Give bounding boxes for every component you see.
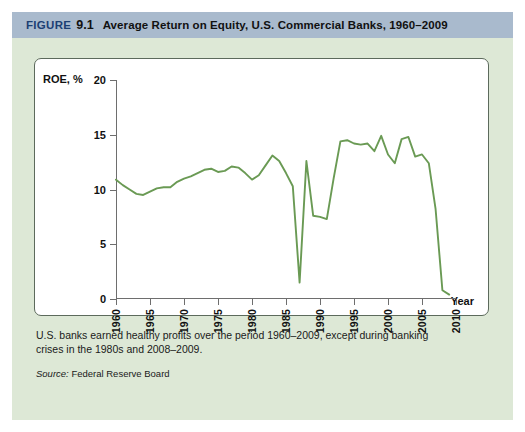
y-tick-label: 10 bbox=[94, 184, 106, 196]
x-tick-mark bbox=[218, 299, 219, 305]
plot-area: 05101520 1960196519701975198019851990199… bbox=[116, 80, 456, 299]
source-text-label: Federal Reserve Board bbox=[69, 368, 170, 379]
x-tick-mark bbox=[456, 299, 457, 305]
source-lead-label: Source: bbox=[36, 368, 69, 379]
figure-title-label: Average Return on Equity, U.S. Commercia… bbox=[103, 19, 448, 31]
x-tick-mark bbox=[354, 299, 355, 305]
x-tick-mark bbox=[252, 299, 253, 305]
y-tick-label: 5 bbox=[100, 238, 106, 250]
figure-header: FIGURE 9.1 Average Return on Equity, U.S… bbox=[12, 12, 513, 38]
figure-source: Source: Federal Reserve Board bbox=[36, 368, 170, 379]
roe-line-series bbox=[116, 80, 456, 299]
x-tick-mark bbox=[286, 299, 287, 305]
x-tick-mark bbox=[320, 299, 321, 305]
x-tick-mark bbox=[422, 299, 423, 305]
figure-container: FIGURE 9.1 Average Return on Equity, U.S… bbox=[12, 12, 513, 420]
x-tick-mark bbox=[184, 299, 185, 305]
x-tick-mark bbox=[116, 299, 117, 305]
figure-caption: U.S. banks earned healthy profits over t… bbox=[36, 328, 456, 356]
y-tick-label: 15 bbox=[94, 129, 106, 141]
y-tick-label: 0 bbox=[100, 293, 106, 305]
y-tick-label: 20 bbox=[94, 74, 106, 86]
figure-number-label: 9.1 bbox=[76, 18, 93, 32]
figure-word-label: FIGURE bbox=[26, 19, 71, 31]
x-tick-mark bbox=[388, 299, 389, 305]
y-axis-title: ROE, % bbox=[43, 73, 83, 85]
chart-panel: ROE, % Year 05101520 1960196519701975198… bbox=[34, 58, 489, 316]
x-tick-mark bbox=[150, 299, 151, 305]
